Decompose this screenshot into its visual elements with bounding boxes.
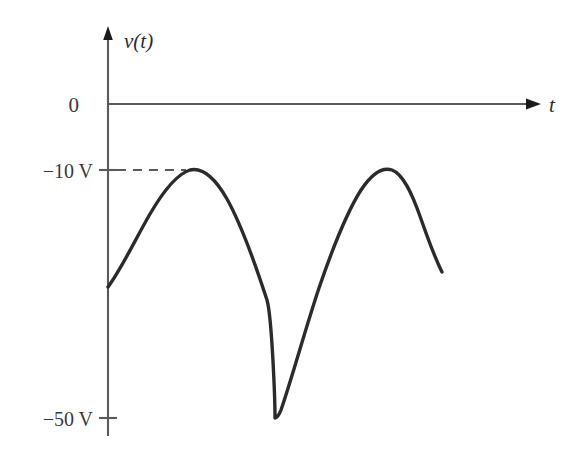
waveform-svg: v(t) t 0 −10 V −50 V (0, 0, 583, 458)
figure-background (0, 0, 583, 458)
y-axis-label: v(t) (124, 29, 153, 53)
tick-label-minus-10v: −10 V (43, 160, 94, 182)
zero-label: 0 (69, 93, 80, 117)
tick-label-minus-50v: −50 V (43, 408, 94, 430)
voltage-waveform-figure: v(t) t 0 −10 V −50 V (0, 0, 583, 458)
